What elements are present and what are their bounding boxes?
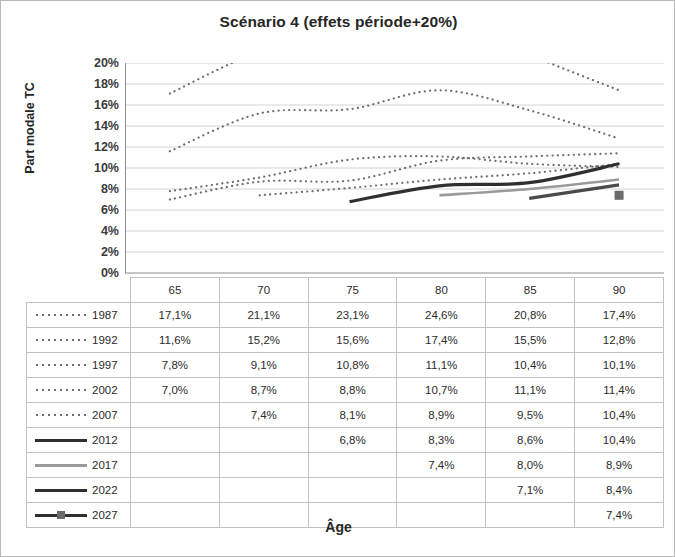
table-cell: 11,6% bbox=[131, 328, 220, 353]
table-cell: 15,2% bbox=[219, 328, 308, 353]
y-axis-tick-label: 14% bbox=[94, 119, 119, 133]
legend-entry-2012[interactable]: 2012 bbox=[27, 428, 131, 453]
column-header-75: 75 bbox=[308, 278, 397, 303]
table-cell: 12,8% bbox=[575, 328, 664, 353]
legend-label: 2022 bbox=[92, 484, 118, 496]
data-table-body: 657075808590198717,1%21,1%23,1%24,6%20,8… bbox=[27, 278, 664, 528]
y-axis-tick-label: 12% bbox=[94, 140, 119, 154]
table-cell bbox=[131, 478, 220, 503]
table-row: 20177,4%8,0%8,9% bbox=[27, 453, 664, 478]
table-cell: 9,1% bbox=[219, 353, 308, 378]
table-cell: 8,3% bbox=[397, 428, 486, 453]
legend-marker-icon bbox=[35, 411, 87, 419]
table-cell: 20,8% bbox=[486, 303, 575, 328]
series-line-2007 bbox=[260, 164, 619, 196]
legend-row: 2007 bbox=[31, 409, 130, 421]
series-marker-2027 bbox=[615, 191, 624, 200]
table-row: 19977,8%9,1%10,8%11,1%10,4%10,1% bbox=[27, 353, 664, 378]
legend-entry-2017[interactable]: 2017 bbox=[27, 453, 131, 478]
table-cell: 8,9% bbox=[397, 403, 486, 428]
table-cell: 8,0% bbox=[486, 453, 575, 478]
table-cell: 8,8% bbox=[308, 378, 397, 403]
legend-label: 1997 bbox=[92, 359, 118, 371]
y-axis-tick-label: 10% bbox=[94, 161, 119, 175]
column-header-80: 80 bbox=[397, 278, 486, 303]
legend-row: 1987 bbox=[31, 309, 130, 321]
table-cell: 9,5% bbox=[486, 403, 575, 428]
table-cell bbox=[131, 403, 220, 428]
table-cell: 11,4% bbox=[575, 378, 664, 403]
table-row: 20077,4%8,1%8,9%9,5%10,4% bbox=[27, 403, 664, 428]
table-cell: 8,4% bbox=[575, 478, 664, 503]
table-cell: 21,1% bbox=[219, 303, 308, 328]
table-cell: 23,1% bbox=[308, 303, 397, 328]
legend-entry-1997[interactable]: 1997 bbox=[27, 353, 131, 378]
table-cell: 8,7% bbox=[219, 378, 308, 403]
table-cell: 10,4% bbox=[575, 428, 664, 453]
legend-marker-icon bbox=[35, 361, 87, 369]
table-row: 199211,6%15,2%15,6%17,4%15,5%12,8% bbox=[27, 328, 664, 353]
table-cell: 15,6% bbox=[308, 328, 397, 353]
table-cell: 10,1% bbox=[575, 353, 664, 378]
series-line-1987 bbox=[170, 63, 619, 93]
table-cell bbox=[219, 478, 308, 503]
table-header-corner bbox=[27, 278, 131, 303]
table-cell: 24,6% bbox=[397, 303, 486, 328]
table-cell: 7,4% bbox=[397, 453, 486, 478]
table-cell bbox=[219, 428, 308, 453]
y-axis-tick-label: 8% bbox=[101, 182, 119, 196]
table-cell: 15,5% bbox=[486, 328, 575, 353]
table-cell bbox=[308, 478, 397, 503]
legend-row: 1992 bbox=[31, 334, 130, 346]
series-line-1992 bbox=[170, 90, 619, 151]
legend-marker-icon bbox=[35, 436, 87, 444]
table-cell: 8,9% bbox=[575, 453, 664, 478]
table-header-row: 657075808590 bbox=[27, 278, 664, 303]
legend-entry-2022[interactable]: 2022 bbox=[27, 478, 131, 503]
y-axis-ticks: 20%18%16%14%12%10%8%6%4%2%0% bbox=[61, 53, 119, 283]
y-axis-tick-label: 16% bbox=[94, 98, 119, 112]
legend-row: 2002 bbox=[31, 384, 130, 396]
table-cell: 17,4% bbox=[575, 303, 664, 328]
legend-marker-icon bbox=[35, 386, 87, 394]
table-cell: 10,8% bbox=[308, 353, 397, 378]
data-table: 657075808590198717,1%21,1%23,1%24,6%20,8… bbox=[26, 277, 664, 528]
column-header-65: 65 bbox=[131, 278, 220, 303]
table-cell: 7,4% bbox=[219, 403, 308, 428]
data-table-wrapper: 657075808590198717,1%21,1%23,1%24,6%20,8… bbox=[26, 277, 664, 528]
table-cell: 8,6% bbox=[486, 428, 575, 453]
y-axis-tick-label: 20% bbox=[94, 56, 119, 70]
table-row: 20027,0%8,7%8,8%10,7%11,1%11,4% bbox=[27, 378, 664, 403]
column-header-90: 90 bbox=[575, 278, 664, 303]
table-cell: 17,1% bbox=[131, 303, 220, 328]
chart-title: Scénario 4 (effets période+20%) bbox=[1, 13, 675, 31]
table-cell: 10,4% bbox=[486, 353, 575, 378]
table-row: 20227,1%8,4% bbox=[27, 478, 664, 503]
x-axis-label: Âge bbox=[1, 519, 675, 535]
legend-entry-1992[interactable]: 1992 bbox=[27, 328, 131, 353]
legend-row: 1997 bbox=[31, 359, 130, 371]
legend-entry-2002[interactable]: 2002 bbox=[27, 378, 131, 403]
y-axis-tick-label: 2% bbox=[101, 245, 119, 259]
y-axis-tick-label: 4% bbox=[101, 224, 119, 238]
legend-marker-icon bbox=[35, 311, 87, 319]
table-cell: 10,7% bbox=[397, 378, 486, 403]
legend-row: 2012 bbox=[31, 434, 130, 446]
column-header-70: 70 bbox=[219, 278, 308, 303]
table-cell bbox=[397, 478, 486, 503]
legend-label: 1992 bbox=[92, 334, 118, 346]
table-cell: 6,8% bbox=[308, 428, 397, 453]
table-cell bbox=[219, 453, 308, 478]
legend-entry-1987[interactable]: 1987 bbox=[27, 303, 131, 328]
table-cell bbox=[131, 428, 220, 453]
legend-label: 2017 bbox=[92, 459, 118, 471]
table-cell: 17,4% bbox=[397, 328, 486, 353]
y-axis-label: Part modale TC bbox=[23, 53, 37, 203]
legend-label: 2002 bbox=[92, 384, 118, 396]
table-cell: 8,1% bbox=[308, 403, 397, 428]
legend-label: 2007 bbox=[92, 409, 118, 421]
table-cell bbox=[131, 453, 220, 478]
table-cell: 7,1% bbox=[486, 478, 575, 503]
legend-entry-2007[interactable]: 2007 bbox=[27, 403, 131, 428]
table-cell: 7,8% bbox=[131, 353, 220, 378]
